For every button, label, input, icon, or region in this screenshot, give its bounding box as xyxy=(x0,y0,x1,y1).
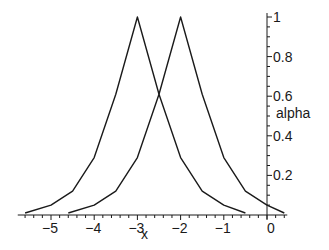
y-tick-label: 0.2 xyxy=(273,167,293,183)
line-chart: −5−4−3−2−100.20.40.60.81 x alpha xyxy=(0,0,329,250)
y-tick-label: 1 xyxy=(273,9,281,25)
series-layer xyxy=(25,17,284,213)
y-tick-label: 0.6 xyxy=(273,88,293,104)
x-tick-label: −5 xyxy=(42,220,58,236)
x-tick-label: 0 xyxy=(267,220,275,236)
series-line-1 xyxy=(25,17,245,213)
x-tick-label: −1 xyxy=(215,220,231,236)
axes: −5−4−3−2−100.20.40.60.81 xyxy=(18,9,293,236)
x-axis-label: x xyxy=(141,226,148,242)
y-tick-label: 0.4 xyxy=(273,128,293,144)
series-line-2 xyxy=(68,17,284,213)
x-tick-label: −4 xyxy=(85,220,101,236)
y-tick-label: 0.8 xyxy=(273,49,293,65)
y-axis-label: alpha xyxy=(276,105,310,121)
x-tick-label: −2 xyxy=(172,220,188,236)
